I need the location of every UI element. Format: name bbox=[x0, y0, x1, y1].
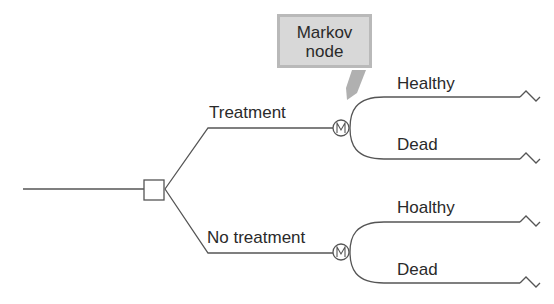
healthy-label-treatment: Healthy bbox=[397, 75, 455, 92]
decision-node bbox=[144, 180, 164, 200]
zigzag-icon bbox=[520, 216, 540, 226]
callout-line2: node bbox=[280, 42, 369, 61]
healthy-label-no-treatment: Hoalthy bbox=[397, 199, 455, 216]
treatment-branch-line bbox=[165, 128, 333, 189]
treatment-label: Treatment bbox=[209, 104, 286, 121]
markov-node-treatment bbox=[333, 120, 349, 136]
callout-line1: Markov bbox=[280, 23, 369, 42]
markov-arc-no-treatment bbox=[350, 222, 384, 283]
markov-node-callout: Markov node bbox=[277, 14, 372, 68]
dead-label-treatment: Dead bbox=[397, 136, 438, 153]
dead-label-no-treatment: Dead bbox=[397, 261, 438, 278]
zigzag-icon bbox=[520, 277, 540, 287]
zigzag-icon bbox=[520, 91, 540, 101]
markov-node-no-treatment bbox=[333, 244, 349, 260]
markov-arc-treatment bbox=[350, 97, 384, 159]
zigzag-icon bbox=[520, 153, 540, 163]
no-treatment-label: No treatment bbox=[207, 229, 305, 246]
callout-pointer-icon bbox=[346, 70, 366, 100]
